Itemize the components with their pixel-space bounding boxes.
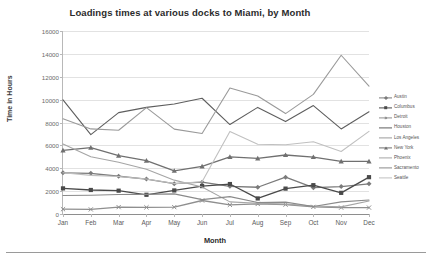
data-point-marker	[228, 182, 232, 186]
legend-swatch-icon	[379, 155, 392, 162]
x-axis-tick	[258, 214, 259, 217]
legend-label: Houston	[394, 125, 411, 130]
legend-swatch-icon	[379, 165, 392, 172]
x-axis-tick-label: Mar	[113, 219, 124, 226]
x-axis-tick	[202, 214, 203, 217]
data-point-marker	[311, 183, 315, 187]
series-columbus	[61, 175, 371, 200]
legend-item-new-york[interactable]: New York	[379, 144, 419, 151]
line-chart: Loadings times at various docks to Miami…	[0, 0, 432, 259]
legend-label: Austin	[394, 95, 407, 100]
series-new-york	[60, 145, 371, 173]
data-point-marker	[61, 186, 65, 190]
y-axis-tick-label: 16000	[42, 28, 59, 35]
x-axis-tick-label: Jan	[58, 219, 68, 226]
series-line	[63, 148, 369, 171]
x-axis-tick	[341, 214, 342, 217]
y-axis-tick-label: 0	[56, 211, 59, 218]
series-austin	[61, 170, 372, 190]
legend-item-los-angeles[interactable]: Los Angeles	[379, 134, 419, 141]
x-axis-tick-label: Aug	[252, 219, 263, 226]
legend-swatch-icon	[379, 124, 392, 131]
legend-label: Phoenix	[394, 156, 411, 161]
series-line	[63, 98, 369, 134]
data-point-marker	[256, 196, 260, 200]
x-axis-tick-label: Jun	[197, 219, 207, 226]
x-axis-tick	[91, 214, 92, 217]
x-axis-tick-label: Jul	[226, 219, 234, 226]
series-line	[63, 55, 369, 133]
y-axis-title: Time in Hours	[6, 75, 13, 122]
legend-item-columbus[interactable]: Columbus	[379, 104, 419, 111]
plot-area: 0200040006000800010000120001400016000 Ja…	[62, 31, 369, 215]
data-point-marker	[367, 175, 371, 179]
x-axis-tick	[119, 214, 120, 217]
x-axis-tick	[230, 214, 231, 217]
x-axis-title: Month	[62, 236, 368, 245]
legend-item-sacramento[interactable]: Sacramento	[379, 165, 419, 172]
x-axis-tick-label: Sep	[280, 219, 291, 226]
x-axis-tick-label: Apr	[141, 219, 151, 226]
data-point-marker	[339, 184, 344, 189]
x-axis-tick-label: Oct	[308, 219, 318, 226]
data-point-marker	[283, 187, 287, 191]
series-lines	[63, 31, 369, 214]
x-axis-tick	[63, 214, 64, 217]
series-houston	[63, 98, 369, 134]
data-point-marker	[283, 175, 288, 180]
x-axis-tick	[174, 214, 175, 217]
y-axis-tick-label: 4000	[45, 165, 59, 172]
y-axis-tick-label: 6000	[45, 142, 59, 149]
data-point-marker	[89, 188, 93, 192]
x-axis-tick	[286, 214, 287, 217]
x-axis-tick	[313, 214, 314, 217]
data-point-marker	[255, 185, 260, 190]
legend-swatch-icon	[379, 134, 392, 141]
legend-item-houston[interactable]: Houston	[379, 124, 419, 131]
legend-swatch-icon	[379, 114, 392, 121]
y-axis-tick-label: 2000	[45, 188, 59, 195]
y-axis-tick-label: 14000	[42, 50, 59, 57]
legend-label: Columbus	[394, 105, 415, 110]
x-axis-tick-label: Dec	[363, 219, 374, 226]
legend-swatch-icon	[379, 104, 392, 111]
series-line	[63, 194, 369, 207]
data-point-marker	[367, 181, 372, 186]
legend-item-austin[interactable]: Austin	[379, 94, 419, 101]
series-sacramento	[63, 194, 369, 207]
x-axis-tick-label: Nov	[335, 219, 346, 226]
legend-swatch-icon	[379, 144, 392, 151]
legend-label: New York	[394, 146, 413, 151]
footer-divider	[6, 252, 426, 253]
series-line	[63, 131, 369, 183]
legend-label: Los Angeles	[394, 136, 419, 141]
x-axis-tick	[369, 214, 370, 217]
chart-title: Loadings times at various docks to Miami…	[0, 7, 380, 18]
legend-item-seattle[interactable]: Seattle	[379, 175, 419, 182]
legend-item-phoenix[interactable]: Phoenix	[379, 155, 419, 162]
data-point-marker	[117, 189, 121, 193]
x-axis-tick	[146, 214, 147, 217]
chart-legend: AustinColumbusDetroitHoustonLos AngelesN…	[379, 94, 419, 182]
legend-item-detroit[interactable]: Detroit	[379, 114, 419, 121]
y-axis-tick-label: 10000	[42, 96, 59, 103]
data-point-marker	[172, 188, 176, 192]
legend-label: Sacramento	[394, 166, 419, 171]
legend-label: Seattle	[394, 176, 408, 181]
y-axis-tick-label: 8000	[45, 119, 59, 126]
legend-swatch-icon	[379, 175, 392, 182]
x-axis-tick-label: May	[168, 219, 180, 226]
y-axis-tick-label: 12000	[42, 73, 59, 80]
data-point-marker	[339, 191, 343, 195]
series-los-angeles	[63, 55, 369, 133]
series-seattle	[63, 131, 369, 183]
legend-swatch-icon	[379, 94, 392, 101]
x-axis-tick-label: Feb	[85, 219, 96, 226]
legend-label: Detroit	[394, 115, 408, 120]
